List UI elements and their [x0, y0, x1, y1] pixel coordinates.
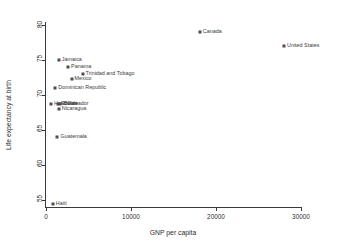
- x-axis-tick-label: 30000: [292, 213, 310, 220]
- data-point[interactable]: [57, 59, 60, 62]
- data-point[interactable]: [54, 87, 57, 90]
- data-point-label: Trinidad and Tobago: [86, 72, 135, 77]
- x-axis-tick-label: 10000: [122, 213, 140, 220]
- data-point[interactable]: [51, 203, 54, 206]
- data-point[interactable]: [283, 45, 286, 48]
- data-point[interactable]: [198, 31, 201, 34]
- data-point[interactable]: [70, 78, 73, 81]
- data-point-label: Panama: [71, 65, 91, 70]
- data-point[interactable]: [67, 66, 70, 69]
- data-point-label: Guatemala: [60, 134, 86, 139]
- y-axis-tick-label: 60: [36, 160, 43, 167]
- data-point[interactable]: [57, 108, 60, 111]
- x-axis-tick: [131, 207, 132, 211]
- y-axis-tick-label: 55: [36, 195, 43, 202]
- x-axis-title: GNP per capita: [150, 229, 196, 236]
- scatter-plot-figure: 5560657075800100002000030000CanadaUnited…: [0, 0, 340, 249]
- data-point-label: Haiti: [56, 202, 67, 207]
- x-axis-tick-label: 0: [44, 213, 48, 220]
- y-axis-title: Life expectancy at birth: [5, 80, 12, 150]
- data-point-label: Canada: [203, 30, 222, 35]
- y-axis-tick-label: 70: [36, 90, 43, 97]
- data-point-label: United States: [287, 44, 319, 49]
- x-axis-tick-label: 20000: [207, 213, 225, 220]
- data-point-label: Nicaragua: [62, 107, 87, 112]
- plot-area: 5560657075800100002000030000CanadaUnited…: [45, 22, 301, 208]
- y-axis-tick-label: 80: [36, 21, 43, 28]
- data-point-label: Dominican Republic: [58, 86, 106, 91]
- data-point-label: Jamaica: [62, 58, 82, 63]
- x-axis-tick: [46, 207, 47, 211]
- data-point[interactable]: [56, 102, 59, 105]
- data-point[interactable]: [50, 102, 53, 105]
- y-axis-tick-label: 75: [36, 55, 43, 62]
- data-point-label: Mexico: [75, 77, 92, 82]
- x-axis-tick: [216, 207, 217, 211]
- data-point[interactable]: [56, 136, 59, 139]
- x-axis-tick: [301, 207, 302, 211]
- y-axis-tick-label: 65: [36, 125, 43, 132]
